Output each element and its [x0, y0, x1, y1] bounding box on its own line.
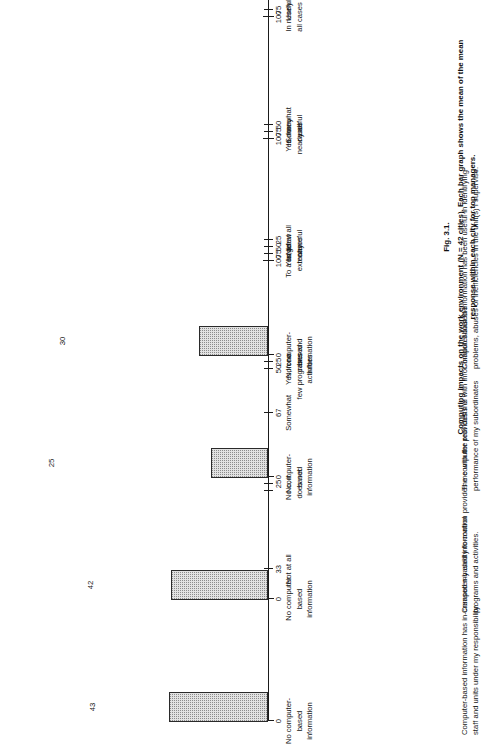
figure-number: Fig. 3.1. [441, 37, 453, 437]
axis-tick [264, 124, 273, 125]
axis-tick-value: 0 [274, 320, 284, 390]
figure-caption: Fig. 3.1. Computing impacts on the work … [441, 37, 479, 437]
axis-tick-value: 0 [274, 564, 284, 634]
axis-tick-caption: Not at all useful [284, 205, 305, 275]
axis-line [268, 0, 269, 355]
axis-tick-caption: Useful [284, 0, 295, 45]
axis-tick-caption: No computer- based information [284, 442, 316, 512]
axis-tick [264, 9, 273, 10]
panel-bar-wrap-3: 30 [0, 326, 268, 356]
axis-tick-label-group: 0No computer based information [274, 564, 316, 634]
axis-tick-caption: No computer- based information [284, 320, 316, 390]
axis-tick-label-group: 0No computer- based information [274, 686, 316, 748]
bar-1 [171, 570, 268, 600]
axis-tick-label-group: 25Not at all useful [274, 205, 305, 275]
panel-bar-wrap-1: 42 [0, 570, 268, 600]
axis-tick-caption: No computer- based information [284, 686, 316, 748]
axis-tick-value: 0 [274, 686, 284, 748]
axis-tick-caption: No computer based information [284, 564, 316, 634]
bar-value-0: 43 [88, 687, 97, 727]
axis-tick-value: 25 [274, 205, 284, 275]
panel-bar-wrap-0: 43 [0, 692, 268, 722]
bar-3 [199, 326, 268, 356]
bar-panel-3: Computer-based information has been usef… [0, 209, 488, 369]
axis-tick [264, 239, 273, 240]
bar-value-1: 42 [86, 565, 95, 605]
axis-tick-value: 50 [274, 90, 284, 160]
axis-tick-value: 0 [274, 442, 284, 512]
axis-tick-label-group: 50Somewhat useful [274, 90, 305, 160]
bar-value-3: 30 [58, 321, 67, 361]
axis-tick-label-group: 0No computer- based information [274, 442, 316, 512]
figure-caption-text: Computing impacts on the work environmen… [456, 40, 477, 435]
panel-bar-wrap-2: 25 [0, 448, 268, 478]
bar-value-2: 25 [47, 443, 56, 483]
axis-tick-value: 75 [274, 0, 284, 45]
bar-0 [169, 692, 268, 722]
bar-2 [211, 448, 269, 478]
panel-axis-3: 0No computer- based information25Not at … [268, 0, 269, 355]
axis-tick-label-group: 0No computer- based information [274, 320, 316, 390]
axis-tick-label-group: 75Useful [274, 0, 295, 45]
axis-tick-caption: Somewhat useful [284, 90, 305, 160]
